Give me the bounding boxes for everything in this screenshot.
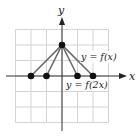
y-axis-label: y [57, 4, 65, 17]
axes: x y [6, 4, 136, 131]
graph-figure: x y y = f(x) y = f(2x) [0, 0, 136, 140]
curve-label-f-2x: y = f(2x) [65, 79, 108, 90]
data-point [28, 73, 35, 80]
annotations: y = f(x) y = f(2x) [65, 51, 117, 91]
data-point [43, 73, 50, 80]
x-axis-label: x [129, 70, 136, 83]
y-axis-arrow-icon [59, 17, 65, 25]
x-axis-arrow-icon [119, 73, 127, 79]
curve-label-f-x: y = f(x) [80, 51, 117, 62]
data-point [59, 42, 66, 49]
